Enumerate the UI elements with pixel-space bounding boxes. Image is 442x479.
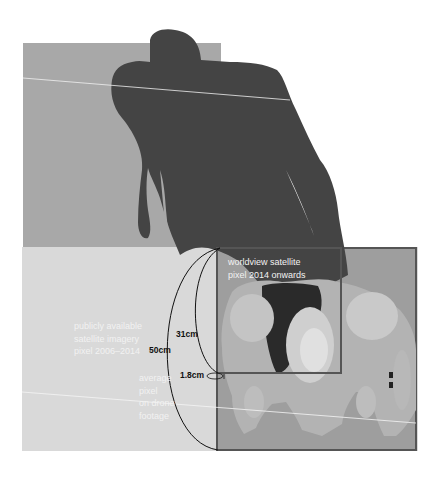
drone-pixel-line2: pixel	[139, 385, 175, 398]
drone-pixel-line4: footage	[139, 410, 175, 423]
worldview-label-line2: pixel 2014 onwards	[228, 269, 306, 282]
figure-right-hand	[356, 386, 376, 418]
measure-1-8cm: 1.8cm	[180, 369, 204, 382]
drone-pixel-line1: average	[139, 372, 175, 385]
figure-head-highlight	[300, 328, 328, 372]
public-imagery-label: publicly available satellite imagery pix…	[74, 320, 142, 358]
figure-watch	[389, 372, 393, 378]
worldview-label-line1: worldview satellite	[228, 256, 306, 269]
figure-watch-2	[389, 382, 393, 388]
worldview-label: worldview satellite pixel 2014 onwards	[228, 256, 306, 281]
public-imagery-line2: satellite imagery	[74, 333, 142, 346]
public-imagery-line1: publicly available	[74, 320, 142, 333]
figure-right-arm	[393, 350, 411, 410]
pixel-scale-diagram: worldview satellite pixel 2014 onwards p…	[0, 0, 442, 479]
measure-31cm: 31cm	[176, 328, 198, 341]
figure-right-shoulder	[346, 292, 398, 340]
public-imagery-line3: pixel 2006–2014	[74, 345, 142, 358]
drone-pixel-label: average pixel on drone footage	[139, 372, 175, 422]
figure-left-shoulder	[230, 294, 274, 342]
diagram-graphic	[0, 0, 442, 479]
drone-pixel-line3: on drone	[139, 397, 175, 410]
measure-50cm: 50cm	[149, 344, 171, 357]
figure-left-hand	[244, 386, 264, 418]
